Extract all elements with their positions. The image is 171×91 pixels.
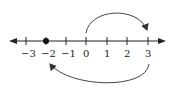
tick-label: −1: [61, 48, 76, 59]
tick-label: −2: [41, 48, 56, 59]
left-arrowhead-icon: [9, 38, 17, 44]
right-arrowhead-icon: [158, 38, 166, 44]
tick-label: 1: [104, 48, 110, 59]
number-line-diagram: −3 −2 −1 0 1 2 3: [0, 0, 171, 91]
tick-label: −3: [21, 48, 36, 59]
tick-label: 0: [83, 48, 89, 59]
tick-label: 2: [124, 48, 130, 59]
arc-above: [86, 13, 147, 33]
arc-below: [50, 64, 149, 83]
tick-labels: −3 −2 −1 0 1 2 3: [21, 48, 151, 59]
tick-label: 3: [145, 48, 151, 59]
point-marker: [43, 38, 49, 44]
axis-line: [9, 38, 166, 44]
